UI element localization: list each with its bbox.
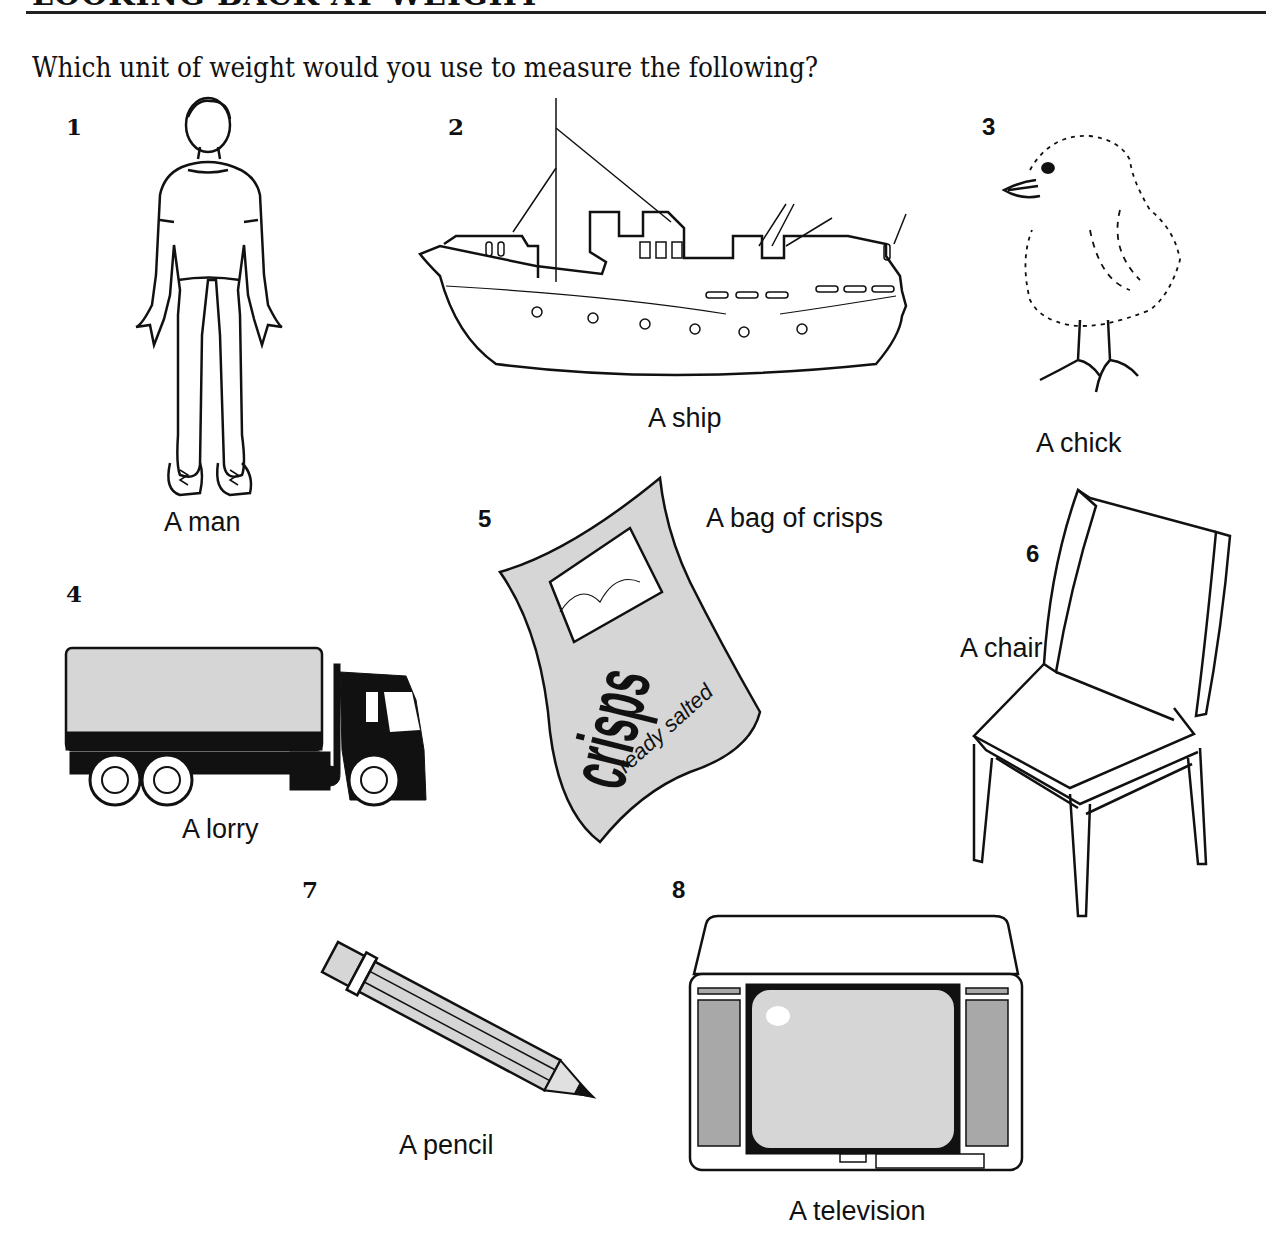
item-number-3: 3 bbox=[982, 113, 995, 141]
item-label-7: A pencil bbox=[399, 1130, 494, 1161]
item-label-2: A ship bbox=[648, 403, 722, 434]
item-number-8: 8 bbox=[672, 876, 685, 904]
item-label-3: A chick bbox=[1036, 428, 1122, 459]
item-label-8: A television bbox=[789, 1196, 926, 1227]
lorry-icon bbox=[60, 640, 440, 810]
item-number-1: 1 bbox=[66, 113, 82, 140]
television-icon bbox=[688, 914, 1024, 1176]
item-number-4: 4 bbox=[66, 580, 82, 607]
item-label-4: A lorry bbox=[182, 814, 259, 845]
man-figure-icon bbox=[130, 95, 290, 505]
item-label-6: A chair bbox=[960, 633, 1043, 664]
ship-icon bbox=[416, 96, 916, 386]
item-label-1: A man bbox=[164, 507, 241, 538]
chick-icon bbox=[1000, 130, 1190, 400]
pencil-icon bbox=[330, 922, 630, 1092]
chair-icon bbox=[960, 488, 1240, 918]
question-text: Which unit of weight would you use to me… bbox=[32, 50, 818, 86]
title-rule bbox=[26, 11, 1266, 14]
item-label-5: A bag of crisps bbox=[706, 503, 883, 534]
item-number-7: 7 bbox=[302, 876, 318, 903]
